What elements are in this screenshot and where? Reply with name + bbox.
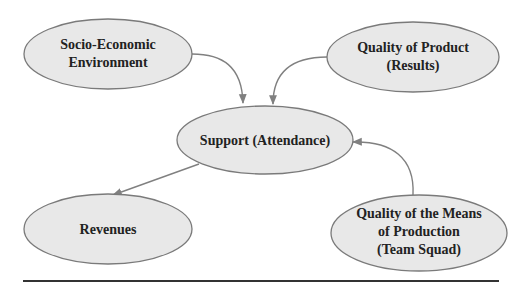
node-label-line: of Production [378, 224, 460, 239]
node-socio-economic-environment: Socio-Economic Environment [24, 19, 192, 89]
node-label-line: Environment [68, 55, 147, 70]
diagram-canvas: Socio-Economic Environment Quality of Pr… [0, 0, 519, 283]
node-label-line: (Results) [387, 58, 440, 74]
node-label-line: Support (Attendance) [200, 133, 331, 149]
node-quality-of-means-of-production: Quality of the Means of Production (Team… [331, 195, 507, 271]
node-ellipse [24, 19, 192, 89]
edge-product-to-support [273, 57, 327, 104]
node-support-attendance: Support (Attendance) [177, 106, 353, 174]
node-ellipse [327, 22, 499, 92]
node-revenues: Revenues [24, 194, 192, 264]
edge-means-to-support [353, 142, 413, 195]
node-label-line: Revenues [80, 222, 137, 237]
edge-support-to-revenues [113, 164, 199, 195]
node-label-line: (Team Squad) [377, 242, 461, 258]
edge-socio-to-support [192, 54, 243, 103]
node-label-line: Quality of Product [357, 40, 469, 55]
node-label-line: Socio-Economic [60, 37, 156, 52]
node-quality-of-product: Quality of Product (Results) [327, 22, 499, 92]
node-label-line: Quality of the Means [356, 206, 482, 221]
